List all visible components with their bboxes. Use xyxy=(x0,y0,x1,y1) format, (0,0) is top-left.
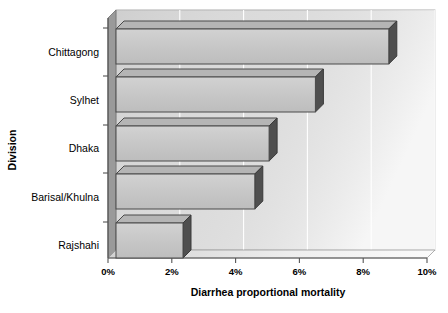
left-wall xyxy=(108,10,116,258)
bar-side-face xyxy=(183,215,191,258)
x-axis-title: Diarrhea proportional mortality xyxy=(191,286,346,298)
x-tick-label-1: 2% xyxy=(165,266,179,277)
y-axis-title: Division xyxy=(6,130,18,171)
bar-front-face xyxy=(116,223,183,258)
y-tick-label-sylhet: Sylhet xyxy=(70,94,99,106)
x-tick-label-0: 0% xyxy=(101,266,115,277)
bar-side-face xyxy=(255,166,263,209)
bar-barisal-khulna[interactable] xyxy=(116,166,263,209)
bar-side-face xyxy=(315,69,323,112)
x-axis-tick-labels: 0% 2% 4% 6% 8% 10% xyxy=(101,266,437,277)
y-axis-category-labels: Chittagong Sylhet Dhaka Barisal/Khulna R… xyxy=(31,46,99,251)
x-tick-label-4: 8% xyxy=(356,266,370,277)
bar-sylhet[interactable] xyxy=(116,69,323,112)
bar-top-face xyxy=(116,166,263,174)
x-tick-label-2: 4% xyxy=(229,266,243,277)
bar-chittagong[interactable] xyxy=(116,21,397,64)
chart-container: 0% 2% 4% 6% 8% 10% Chittagong Sylhet Dha… xyxy=(0,0,448,313)
y-tick-label-dhaka: Dhaka xyxy=(69,142,100,154)
bar-front-face xyxy=(116,77,315,112)
y-tick-label-barisal-khulna: Barisal/Khulna xyxy=(31,191,99,203)
y-axis-ticks xyxy=(103,28,108,222)
x-tick-label-5: 10% xyxy=(417,266,437,277)
x-tick-label-3: 6% xyxy=(293,266,307,277)
bar-rajshahi[interactable] xyxy=(116,215,191,258)
bar-top-face xyxy=(116,118,277,126)
bar-front-face xyxy=(116,29,389,64)
bar-top-face xyxy=(116,215,191,223)
bar-dhaka[interactable] xyxy=(116,118,277,161)
bar-chart-3d: 0% 2% 4% 6% 8% 10% Chittagong Sylhet Dha… xyxy=(0,0,448,313)
bar-side-face xyxy=(389,21,397,64)
y-tick-label-rajshahi: Rajshahi xyxy=(58,239,99,251)
bar-front-face xyxy=(116,174,255,209)
x-axis-ticks xyxy=(108,258,427,263)
bar-top-face xyxy=(116,21,397,29)
y-tick-label-chittagong: Chittagong xyxy=(48,46,99,58)
bar-front-face xyxy=(116,126,269,161)
bar-side-face xyxy=(269,118,277,161)
bar-top-face xyxy=(116,69,323,77)
